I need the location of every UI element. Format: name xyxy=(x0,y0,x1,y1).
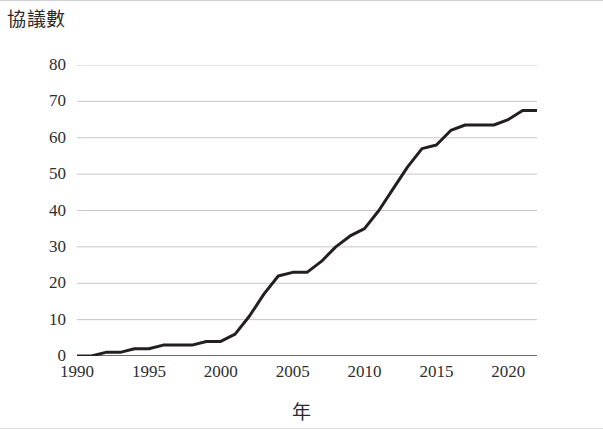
x-axis-title: 年 xyxy=(0,397,603,424)
y-tick-label: 30 xyxy=(20,238,66,255)
x-tick-label: 1990 xyxy=(47,363,107,381)
y-tick-label: 20 xyxy=(20,274,66,291)
y-tick-label: 80 xyxy=(20,56,66,73)
x-tick-label: 2010 xyxy=(335,363,395,381)
y-tick-label: 70 xyxy=(20,92,66,109)
plot-area xyxy=(77,65,537,356)
data-series-line xyxy=(77,110,537,356)
x-tick-label: 2005 xyxy=(263,363,323,381)
x-tick-label: 2020 xyxy=(478,363,538,381)
y-tick-label: 50 xyxy=(20,165,66,182)
x-tick-label: 1995 xyxy=(119,363,179,381)
chart-figure: 協議數 80706050403020100 199019952000200520… xyxy=(0,0,603,429)
x-tick-label: 2015 xyxy=(406,363,466,381)
gridlines xyxy=(77,65,537,356)
y-axis-title: 協議數 xyxy=(7,9,66,31)
y-tick-label: 40 xyxy=(20,202,66,219)
line-chart-svg xyxy=(77,65,537,356)
x-tick-label: 2000 xyxy=(191,363,251,381)
y-tick-label: 10 xyxy=(20,311,66,328)
y-tick-label: 60 xyxy=(20,129,66,146)
